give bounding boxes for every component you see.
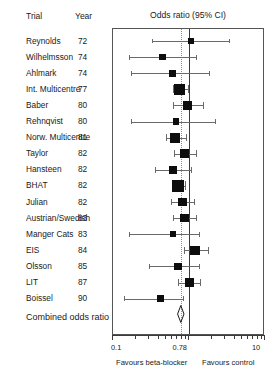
trial-name: Baber xyxy=(26,100,48,110)
trial-year: 82 xyxy=(78,197,87,207)
trial-year: 82 xyxy=(78,164,87,174)
trial-year: 84 xyxy=(78,245,87,255)
trial-table: Trial Year Reynolds72Wilhelmsson74Ahlmar… xyxy=(0,0,112,377)
trial-name: Boissel xyxy=(26,293,53,303)
combined-odds-ratio-label: Combined odds ratio xyxy=(26,312,109,322)
axis-tick xyxy=(264,335,265,340)
trial-year: 80 xyxy=(78,100,87,110)
trial-name: Ahlmark xyxy=(26,68,56,78)
favours-treatment-label: Favours beta-blocker xyxy=(116,358,187,367)
trial-name: EIS xyxy=(26,245,39,255)
summary-diamond xyxy=(113,29,265,336)
axis-tick xyxy=(257,335,258,339)
axis-tick xyxy=(224,335,225,339)
trial-name: Wilhelmsson xyxy=(26,52,73,62)
axis-tick xyxy=(158,335,159,339)
trial-year: 82 xyxy=(78,180,87,190)
axis-tick xyxy=(247,335,248,339)
trial-name: Olsson xyxy=(26,261,52,271)
trial-year: 74 xyxy=(78,52,87,62)
axis-tick xyxy=(241,335,242,339)
trial-name: Int. Multicentre xyxy=(26,84,80,94)
x-tick-label-min: 0.1 xyxy=(111,343,121,352)
plot-area xyxy=(112,28,264,335)
trial-name: Taylor xyxy=(26,148,48,158)
trial-year: 74 xyxy=(78,68,87,78)
x-tick-label-max: 10 xyxy=(252,343,260,352)
x-tick-label-pooled: 0.78 xyxy=(140,343,220,352)
axis-tick xyxy=(148,335,149,339)
trial-year: 90 xyxy=(78,293,87,303)
axis-tick xyxy=(181,335,182,339)
favours-control-label: Favours control xyxy=(202,358,254,367)
axis-tick xyxy=(176,335,177,339)
axis-tick xyxy=(261,335,262,339)
trial-name: Rehnqvist xyxy=(26,116,63,126)
plot-title: Odds ratio (95% CI) xyxy=(112,10,264,20)
axis-tick xyxy=(188,335,189,340)
trial-year: 72 xyxy=(78,36,87,46)
forest-plot-figure: Trial Year Reynolds72Wilhelmsson74Ahlmar… xyxy=(0,0,277,377)
trial-year: 83 xyxy=(78,229,87,239)
trial-year: 83 xyxy=(78,213,87,223)
trial-year: 80 xyxy=(78,116,87,126)
axis-tick xyxy=(112,335,113,340)
axis-tick xyxy=(234,335,235,339)
trial-name: BHAT xyxy=(26,180,48,190)
trial-year: 85 xyxy=(78,261,87,271)
trial-name: Julian xyxy=(26,197,48,207)
axis-tick xyxy=(171,335,172,339)
trial-name: Hansteen xyxy=(26,164,62,174)
axis-tick xyxy=(165,335,166,339)
trial-name: LIT xyxy=(26,277,38,287)
column-header-trial: Trial xyxy=(26,11,42,21)
column-header-year: Year xyxy=(75,11,92,21)
axis-tick xyxy=(185,335,186,339)
plot-inner xyxy=(113,29,263,334)
trial-year: 77 xyxy=(78,84,87,94)
trial-year: 82 xyxy=(78,148,87,158)
axis-tick xyxy=(135,335,136,339)
axis-tick xyxy=(252,335,253,339)
trial-year: 81 xyxy=(78,132,87,142)
trial-name: Reynolds xyxy=(26,36,61,46)
trial-year: 87 xyxy=(78,277,87,287)
trial-name: Manger Cats xyxy=(26,229,74,239)
axis-tick xyxy=(211,335,212,339)
